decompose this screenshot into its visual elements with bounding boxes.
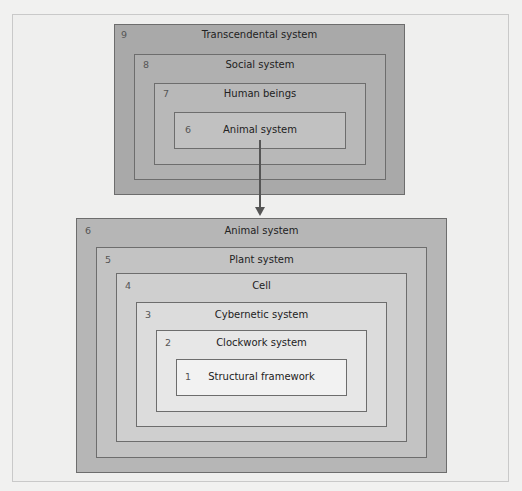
level-label: Transcendental system [115, 29, 404, 40]
box-level-1-structural-framework: 1 Structural framework [176, 359, 347, 396]
arrow-down-icon [255, 207, 265, 216]
level-label: Human beings [155, 88, 365, 99]
level-label: Plant system [97, 254, 426, 265]
level-label: Animal system [77, 225, 446, 236]
level-label: Cell [117, 280, 406, 291]
level-label: Clockwork system [157, 337, 366, 348]
level-label: Structural framework [177, 371, 346, 382]
connector-arrow-line [259, 140, 261, 208]
level-label: Cybernetic system [137, 309, 386, 320]
level-label: Social system [135, 59, 385, 70]
level-label: Animal system [175, 124, 345, 135]
